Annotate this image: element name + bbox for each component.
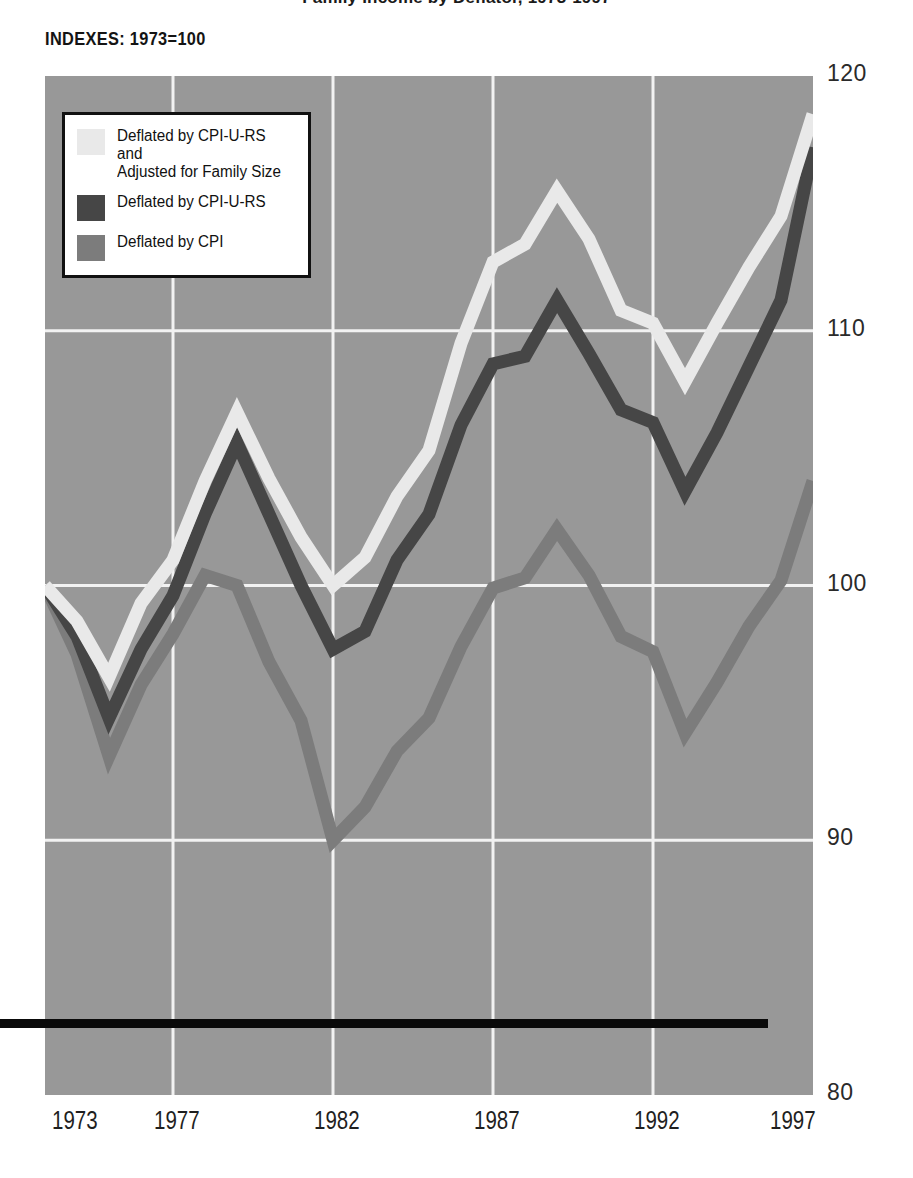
legend-swatch-cpi-u-rs-adjusted bbox=[77, 129, 105, 155]
x-axis-tick-label: 1992 bbox=[634, 1108, 680, 1133]
x-axis-baseline bbox=[0, 1019, 768, 1028]
y-axis-tick-label: 110 bbox=[827, 317, 865, 340]
legend-item: Deflated by CPI-U-RS bbox=[77, 193, 298, 221]
legend-label: Deflated by CPI-U-RS and Adjusted for Fa… bbox=[117, 127, 289, 181]
y-axis-tick-label: 100 bbox=[827, 572, 867, 595]
chart-legend: Deflated by CPI-U-RS and Adjusted for Fa… bbox=[62, 112, 311, 278]
x-axis-tick-label: 1977 bbox=[154, 1108, 200, 1133]
y-axis-tick-label: 120 bbox=[827, 62, 867, 85]
legend-swatch-cpi-u-rs bbox=[77, 195, 105, 221]
x-axis-tick-label: 1973 bbox=[52, 1108, 98, 1133]
y-axis-tick-label: 90 bbox=[827, 826, 854, 849]
legend-label: Deflated by CPI bbox=[117, 233, 223, 251]
series-line bbox=[45, 481, 813, 840]
legend-item: Deflated by CPI bbox=[77, 233, 298, 261]
legend-swatch-cpi bbox=[77, 235, 105, 261]
x-axis-tick-label: 1987 bbox=[474, 1108, 520, 1133]
legend-label: Deflated by CPI-U-RS bbox=[117, 193, 266, 211]
x-axis-tick-label: 1997 bbox=[770, 1108, 816, 1133]
legend-item: Deflated by CPI-U-RS and Adjusted for Fa… bbox=[77, 127, 298, 181]
chart-subtitle: INDEXES: 1973=100 bbox=[45, 28, 206, 50]
y-axis-tick-label: 80 bbox=[827, 1081, 854, 1104]
x-axis-tick-label: 1982 bbox=[314, 1108, 360, 1133]
chart-title: Family Income by Deflator, 1973-1997 bbox=[0, 0, 913, 6]
chart-figure: Family Income by Deflator, 1973-1997 IND… bbox=[0, 0, 913, 1178]
